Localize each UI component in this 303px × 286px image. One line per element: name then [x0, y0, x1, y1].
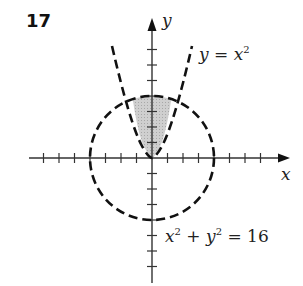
parabola-equation-label: y = x2 — [199, 44, 250, 64]
circle-equals: = — [222, 226, 247, 246]
circle-rhs: 16 — [247, 226, 269, 246]
circle-term-a: x — [165, 226, 175, 246]
x-axis — [29, 153, 290, 163]
parabola-base: x — [234, 44, 244, 64]
problem-number: 17 — [26, 10, 51, 31]
circle-plus: + — [181, 226, 206, 246]
graph-figure: 17 y x y = x2 x2 + y2 = 16 — [0, 0, 303, 286]
circle-equation-label: x2 + y2 = 16 — [165, 226, 269, 246]
y-axis-label: y — [162, 10, 172, 30]
circle-term-b: y — [206, 226, 216, 246]
parabola-equals: = — [209, 44, 234, 64]
parabola-lhs: y — [199, 44, 209, 64]
x-axis-label: x — [281, 164, 291, 184]
parabola-exponent: 2 — [243, 44, 249, 55]
